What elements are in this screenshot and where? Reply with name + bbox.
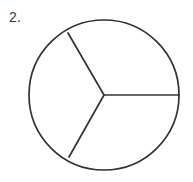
- worksheet-figure-canvas: 2.: [0, 0, 193, 182]
- circle-thirds-diagram: [0, 0, 193, 182]
